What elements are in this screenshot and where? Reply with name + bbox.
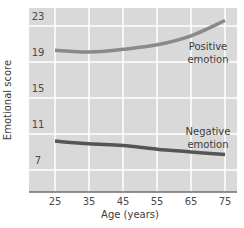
- x-tick-label: 45: [117, 196, 130, 207]
- positive-emotion-label: Positive: [189, 41, 228, 52]
- y-tick-label: 11: [32, 119, 45, 130]
- y-tick-label: 7: [35, 155, 41, 166]
- x-tick-label: 65: [185, 196, 198, 207]
- x-tick-label: 35: [83, 196, 96, 207]
- x-tick-label: 75: [219, 196, 232, 207]
- y-tick-label: 23: [32, 11, 45, 22]
- positive-emotion-label: emotion: [187, 54, 228, 65]
- y-tick-label: 15: [32, 83, 45, 94]
- line-chart: 231915117 253545556575 PositiveemotionNe…: [0, 0, 244, 228]
- x-tick-label: 25: [49, 196, 62, 207]
- negative-emotion-label: emotion: [187, 139, 228, 150]
- y-axis-title: Emotional score: [2, 60, 13, 140]
- plot-background: [29, 8, 237, 192]
- y-tick-label: 19: [32, 47, 45, 58]
- x-axis-title: Age (years): [101, 209, 159, 220]
- x-tick-labels: 253545556575: [49, 196, 232, 207]
- x-tick-label: 55: [151, 196, 164, 207]
- negative-emotion-label: Negative: [186, 126, 231, 137]
